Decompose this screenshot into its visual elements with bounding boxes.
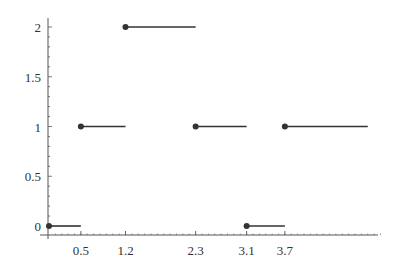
x-tick-label: 3.7 — [277, 243, 294, 258]
y-tick-label: 0.5 — [25, 169, 41, 184]
step-segment — [78, 124, 126, 130]
x-tick-label: 1.2 — [117, 243, 133, 258]
y-tick-label: 1.5 — [25, 70, 41, 85]
step-segment — [193, 124, 247, 130]
closed-endpoint-dot — [123, 24, 129, 30]
y-tick-label: 2 — [35, 20, 42, 35]
y-tick-label: 1 — [35, 120, 42, 135]
x-tick-label: 0.5 — [73, 243, 89, 258]
closed-endpoint-dot — [244, 223, 250, 229]
x-tick-label: 2.3 — [188, 243, 204, 258]
step-series — [46, 24, 368, 229]
step-segment — [282, 124, 368, 130]
closed-endpoint-dot — [282, 124, 288, 130]
closed-endpoint-dot — [78, 124, 84, 130]
x-tick-label: 3.1 — [239, 243, 255, 258]
closed-endpoint-dot — [46, 223, 52, 229]
step-segment — [123, 24, 196, 30]
tick-labels: 0.51.22.33.13.700.511.52 — [25, 20, 294, 258]
closed-endpoint-dot — [193, 124, 199, 130]
axes — [40, 18, 381, 239]
step-segment — [244, 223, 285, 229]
step-function-chart: 0.51.22.33.13.700.511.52 — [0, 0, 398, 275]
y-tick-label: 0 — [35, 219, 42, 234]
step-segment — [46, 223, 81, 229]
